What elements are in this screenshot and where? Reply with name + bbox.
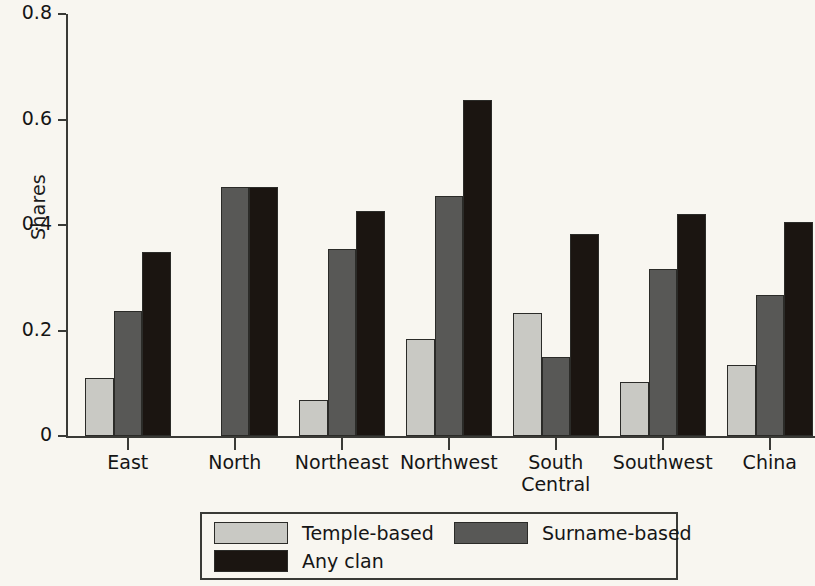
bar-group <box>299 14 385 436</box>
bar-surname <box>756 295 785 436</box>
legend-swatch-surname-based <box>454 522 528 544</box>
legend-swatch-any-clan <box>214 550 288 572</box>
bar-group <box>192 14 278 436</box>
bar-surname <box>649 269 678 436</box>
legend-item-temple-based: Temple-based <box>214 522 434 544</box>
bar-temple <box>299 400 328 436</box>
bar-any <box>784 222 813 436</box>
bar-surname <box>114 311 143 436</box>
y-tick-label: 0 <box>0 423 52 445</box>
y-tick-mark <box>58 224 66 226</box>
bar-any <box>249 187 278 436</box>
bar-surname <box>328 249 357 436</box>
y-axis-title: Shares <box>27 147 49 267</box>
x-axis-labels: EastNorthNortheastNorthwestSouth Central… <box>0 447 815 507</box>
legend-label-surname-based: Surname-based <box>542 522 692 544</box>
bar-any <box>356 211 385 436</box>
bar-surname <box>221 187 250 436</box>
y-tick-mark <box>58 330 66 332</box>
bar-temple <box>406 339 435 436</box>
y-tick-label: 0.8 <box>0 1 52 23</box>
bar-group <box>620 14 706 436</box>
bar-any <box>463 100 492 436</box>
legend-item-surname-based: Surname-based <box>454 522 692 544</box>
bar-group <box>406 14 492 436</box>
legend-label-temple-based: Temple-based <box>302 522 434 544</box>
bar-any <box>142 252 171 436</box>
y-tick-label: 0.6 <box>0 107 52 129</box>
bar-any <box>570 234 599 436</box>
bar-temple <box>727 365 756 436</box>
bar-temple <box>85 378 114 436</box>
legend-label-any-clan: Any clan <box>302 550 384 572</box>
bar-temple <box>620 382 649 436</box>
bar-chart: Shares 00.20.40.60.8 EastNorthNortheastN… <box>0 0 815 586</box>
legend-item-any-clan: Any clan <box>214 550 384 572</box>
y-tick-label: 0.2 <box>0 318 52 340</box>
bar-group <box>85 14 171 436</box>
x-axis-line <box>66 436 815 438</box>
y-tick-mark <box>58 435 66 437</box>
bar-group <box>727 14 813 436</box>
chart-legend: Temple-based Surname-based Any clan <box>200 512 678 580</box>
bar-surname <box>435 196 464 436</box>
y-tick-label: 0.4 <box>0 212 52 234</box>
bar-group <box>513 14 599 436</box>
bar-temple <box>513 313 542 436</box>
x-tick-label: China <box>700 451 815 473</box>
y-tick-mark <box>58 119 66 121</box>
legend-swatch-temple-based <box>214 522 288 544</box>
y-tick-mark <box>58 13 66 15</box>
plot-area <box>66 14 815 436</box>
bar-any <box>677 214 706 436</box>
bar-surname <box>542 357 571 436</box>
